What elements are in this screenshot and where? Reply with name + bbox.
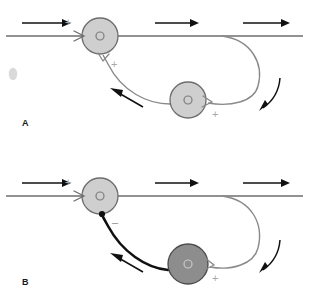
nucleus-upper-b bbox=[96, 192, 104, 200]
sign-plus-lower-output-b: + bbox=[212, 272, 218, 284]
figure-container: + + + A bbox=[0, 0, 309, 303]
panel-label-a: A bbox=[22, 118, 29, 128]
nucleus-lower-b bbox=[184, 260, 192, 268]
scan-smudge-artifact bbox=[9, 68, 17, 80]
sign-plus-input-a: + bbox=[65, 16, 71, 28]
panel-a: + + + A bbox=[6, 16, 303, 128]
nucleus-lower-a bbox=[184, 96, 192, 104]
circuit-diagram-svg: + + + A bbox=[0, 0, 309, 303]
flow-arrow-right-a bbox=[243, 19, 290, 27]
flow-arrow-left-b bbox=[22, 179, 71, 187]
flow-arrow-mid-a bbox=[155, 19, 199, 27]
flow-arrow-left-a bbox=[22, 19, 71, 27]
flow-arrow-descending-b bbox=[259, 240, 280, 273]
axon-collateral-a bbox=[208, 36, 260, 104]
sign-minus-upper-input-b: – bbox=[112, 216, 119, 228]
flow-arrow-mid-b bbox=[155, 179, 199, 187]
sign-plus-upper-output-a: + bbox=[111, 58, 117, 70]
flow-arrow-returning-b bbox=[110, 253, 143, 272]
panel-b: + – + B bbox=[6, 176, 303, 287]
sign-plus-lower-output-a: + bbox=[212, 108, 218, 120]
flow-arrow-right-b bbox=[243, 179, 290, 187]
flow-arrow-returning-a bbox=[110, 88, 143, 107]
synaptic-bouton-b bbox=[99, 211, 105, 217]
flow-arrow-descending-a bbox=[259, 78, 280, 111]
nucleus-upper-a bbox=[96, 32, 104, 40]
sign-plus-input-b: + bbox=[65, 176, 71, 188]
axon-collateral-b bbox=[210, 196, 260, 268]
panel-label-b: B bbox=[22, 277, 29, 287]
